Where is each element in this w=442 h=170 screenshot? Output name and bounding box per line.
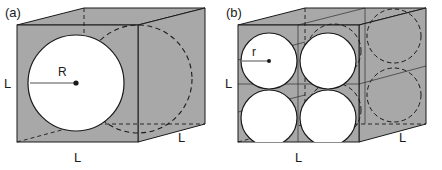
panel-a: (a) R L L L [0, 0, 221, 170]
panel-a-dim-right: L [178, 131, 185, 144]
panel-b: (b) r L L L [221, 0, 442, 170]
figure-two-cube-sphere-packing: (a) R L L L [0, 0, 442, 170]
panel-a-drawing [0, 0, 221, 170]
panel-b-dim-left: L [225, 77, 232, 90]
panel-b-drawing [221, 0, 442, 170]
panel-a-dim-bottom: L [74, 151, 81, 164]
sphere-r-front [241, 90, 297, 146]
sphere-center-dot [267, 59, 271, 63]
cube-right-face [138, 8, 205, 142]
sphere-center-dot [73, 80, 78, 85]
panel-a-dim-left: L [4, 77, 11, 90]
panel-a-radius-label: R [58, 66, 67, 78]
sphere-r-front [300, 90, 356, 146]
panel-a-tag: (a) [5, 6, 21, 19]
panel-b-tag: (b) [226, 6, 242, 19]
sphere-r-front [300, 33, 356, 89]
panel-b-dim-bottom: L [295, 151, 302, 164]
panel-b-dim-right: L [399, 131, 406, 144]
panel-b-radius-label: r [252, 46, 256, 58]
